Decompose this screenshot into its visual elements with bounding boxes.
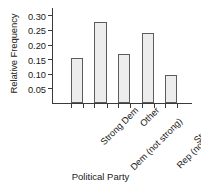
y-tick-mark: [48, 45, 52, 46]
y-tick-label: 0.25: [28, 27, 46, 36]
bar-chart: Relative Frequency 0.050.100.150.200.250…: [0, 0, 201, 191]
bar: [94, 22, 106, 103]
y-tick-label: 0.05: [28, 86, 46, 95]
x-tick-label: Strong Rep: [193, 106, 201, 145]
y-tick-label: 0.30: [28, 13, 46, 22]
x-tick-mark: [83, 104, 84, 108]
y-tick-mark: [48, 15, 52, 16]
x-tick-mark: [177, 104, 178, 108]
x-tick-mark: [107, 104, 108, 108]
x-tick-mark: [71, 104, 72, 108]
x-tick-mark: [154, 104, 155, 108]
x-tick-mark: [142, 104, 143, 108]
x-axis-title: Political Party: [0, 171, 201, 182]
y-tick-label: 0.15: [28, 57, 46, 66]
x-tick-label: Strong Dem: [99, 106, 140, 147]
cropped-chart-title: [56, 0, 196, 1]
x-axis-tick-labels: Strong DemDem (not strong)OtherRep (not …: [0, 103, 201, 163]
x-tick-mark: [130, 104, 131, 108]
bar: [118, 54, 130, 103]
y-tick-mark: [48, 74, 52, 75]
y-axis-tick-labels: 0.050.100.150.200.250.30: [16, 10, 46, 102]
x-tick-mark: [165, 104, 166, 108]
y-tick-mark: [48, 59, 52, 60]
x-tick-label: Other: [139, 106, 162, 129]
y-tick-mark: [48, 30, 52, 31]
x-tick-mark: [94, 104, 95, 108]
bar: [142, 33, 154, 103]
bar: [71, 58, 83, 103]
x-tick-mark: [118, 104, 119, 108]
y-tick-label: 0.10: [28, 71, 46, 80]
plot-area: [53, 8, 192, 103]
y-tick-mark: [48, 88, 52, 89]
y-tick-label: 0.20: [28, 42, 46, 51]
bar: [165, 75, 177, 103]
